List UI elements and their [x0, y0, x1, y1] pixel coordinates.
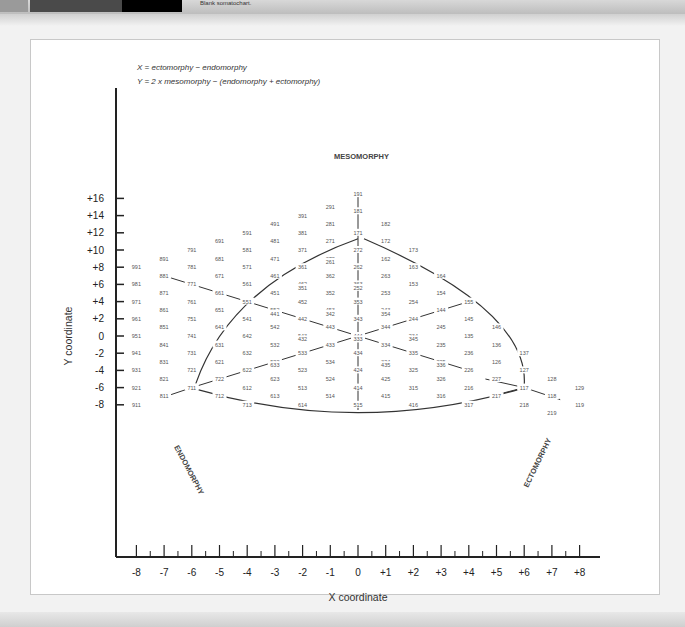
- x-tick-label: -7: [160, 567, 169, 578]
- somatotype-label: 127: [520, 367, 529, 373]
- somatotype-label: 325: [409, 367, 418, 373]
- x-tick-label: -6: [187, 567, 196, 578]
- somatotype-label: 315: [409, 385, 418, 391]
- x-tick-label: -3: [270, 567, 279, 578]
- y-tick-label: +10: [87, 245, 104, 256]
- somatotype-label: 354: [381, 311, 390, 317]
- line-endomorphy-diagonal: [164, 276, 469, 371]
- somatotype-label: 262: [353, 264, 362, 270]
- somatotype-label: 137: [520, 350, 529, 356]
- somatotype-label: 621: [215, 359, 224, 365]
- somatotype-label: 118: [548, 393, 557, 399]
- somatotype-label: 154: [437, 290, 446, 296]
- somatotype-label: 443: [326, 324, 335, 330]
- somatotype-label: 981: [132, 281, 141, 287]
- label-endomorphy: ENDOMORPHY: [172, 444, 206, 496]
- somatotype-label: 551: [243, 299, 252, 305]
- y-tick-label: +12: [87, 227, 104, 238]
- somatotype-label: 951: [132, 333, 141, 339]
- somatotype-label: 182: [381, 221, 390, 227]
- somatotype-label: 612: [243, 385, 252, 391]
- somatotype-label: 227: [492, 376, 501, 382]
- somatotype-label: 334: [381, 342, 390, 348]
- y-tick-label: +14: [87, 210, 104, 221]
- somatotype-label: 561: [243, 281, 252, 287]
- somatotype-label: 571: [243, 264, 252, 270]
- somatotype-label: 811: [160, 393, 169, 399]
- somatotype-label: 253: [381, 290, 390, 296]
- somatotype-label: 791: [187, 247, 196, 253]
- somatotype-label: 172: [381, 238, 390, 244]
- formula-x: X = ectomorphy − endomorphy: [136, 63, 248, 72]
- somatotype-label: 591: [243, 230, 252, 236]
- somatotype-label: 155: [464, 299, 473, 305]
- somatotype-label: 435: [381, 362, 390, 368]
- somatotype-label: 671: [215, 273, 224, 279]
- somatotype-label: 971: [132, 299, 141, 305]
- somatotype-label: 542: [270, 324, 279, 330]
- x-axis-title: X coordinate: [329, 591, 388, 603]
- x-tick-label: -2: [298, 567, 307, 578]
- axes: +16+14+12+10+8+6+4+20-2-4-6-8-8-7-6-5-4-…: [87, 88, 600, 578]
- somatotype-label: 135: [464, 333, 473, 339]
- somatotype-label: 326: [437, 376, 446, 382]
- somatotype-label: 434: [353, 350, 362, 356]
- somatotype-label: 145: [464, 316, 473, 322]
- somatotype-label: 252: [353, 285, 362, 291]
- somatotype-label: 191: [353, 191, 362, 197]
- somatotype-label: 524: [326, 376, 335, 382]
- somatotype-label: 581: [243, 247, 252, 253]
- somatotype-label: 236: [464, 350, 473, 356]
- x-tick-label: +2: [408, 567, 420, 578]
- somatotype-label: 136: [492, 342, 501, 348]
- somatotype-label: 471: [270, 256, 279, 262]
- somatotype-label: 164: [437, 273, 446, 279]
- y-tick-label: -2: [95, 348, 104, 359]
- somatotype-label: 425: [381, 376, 390, 382]
- y-tick-label: +8: [93, 262, 105, 273]
- somatotype-label: 911: [132, 402, 141, 408]
- somatotype-label: 442: [298, 316, 307, 322]
- somatotype-label: 335: [409, 350, 418, 356]
- somatotype-label: 163: [409, 264, 418, 270]
- y-tick-label: +4: [93, 296, 105, 307]
- somatotype-label: 391: [298, 213, 307, 219]
- somatotype-label: 316: [437, 393, 446, 399]
- somatotype-label: 991: [132, 264, 141, 270]
- somatotype-label: 381: [298, 230, 307, 236]
- somatotype-label: 153: [409, 281, 418, 287]
- y-tick-label: -4: [95, 365, 104, 376]
- somatotype-label: 244: [409, 316, 418, 322]
- somatotype-label: 891: [160, 256, 169, 262]
- somatotype-label: 713: [243, 402, 252, 408]
- x-tick-label: -8: [132, 567, 141, 578]
- somatotype-label: 513: [298, 385, 307, 391]
- somatotype-label: 216: [464, 385, 473, 391]
- somatotype-label: 117: [520, 385, 529, 391]
- somatotype-label: 263: [381, 273, 390, 279]
- label-ectomorphy: ECTOMORPHY: [522, 437, 554, 489]
- x-tick-label: +1: [380, 567, 392, 578]
- x-tick-label: 0: [355, 567, 361, 578]
- somatotype-label: 523: [298, 367, 307, 373]
- somatotype-label: 613: [270, 393, 279, 399]
- somatotype-label: 761: [187, 299, 196, 305]
- somatotype-label: 651: [215, 307, 224, 313]
- somatotype-label: 129: [575, 385, 584, 391]
- somatotype-label: 632: [243, 350, 252, 356]
- somatotype-label: 711: [187, 385, 196, 391]
- somatotype-label: 623: [270, 376, 279, 382]
- somatotype-label: 533: [298, 350, 307, 356]
- somatotype-label: 128: [547, 376, 556, 382]
- y-tick-label: +6: [93, 279, 105, 290]
- x-tick-label: +7: [546, 567, 558, 578]
- somatotype-label: 731: [187, 350, 196, 356]
- y-tick-label: 0: [98, 331, 104, 342]
- somatotype-label: 871: [160, 290, 169, 296]
- somatotype-label: 351: [298, 285, 307, 291]
- somatotype-label: 831: [160, 359, 169, 365]
- somatotype-label: 414: [353, 385, 362, 391]
- somatotype-label: 281: [326, 221, 335, 227]
- somatotype-label: 173: [409, 247, 418, 253]
- x-tick-label: +4: [463, 567, 475, 578]
